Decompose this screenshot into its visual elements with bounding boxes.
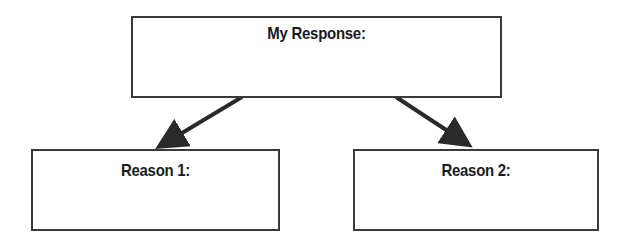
reason-2-label: Reason 2: [370, 161, 583, 181]
my-response-box[interactable]: My Response: [131, 16, 502, 98]
arrow-to-reason-1 [162, 97, 242, 145]
my-response-label: My Response: [155, 24, 478, 44]
reason-1-box[interactable]: Reason 1: [31, 149, 280, 231]
arrow-to-reason-2 [396, 97, 466, 143]
reason-2-box[interactable]: Reason 2: [353, 149, 599, 231]
reason-1-label: Reason 1: [48, 161, 264, 181]
